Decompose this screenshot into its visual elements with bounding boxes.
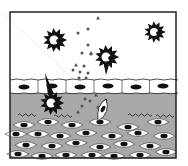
antigen-dot-icon bbox=[79, 71, 82, 74]
nucleus-icon bbox=[14, 152, 21, 157]
epithelial-layer bbox=[10, 79, 178, 94]
antigen-dot-icon bbox=[78, 77, 81, 80]
nucleus-icon bbox=[88, 153, 95, 158]
antigen-dot-icon bbox=[85, 77, 88, 80]
nucleus-icon bbox=[68, 123, 75, 128]
notch bbox=[53, 102, 57, 106]
notch bbox=[108, 56, 112, 60]
epithelial-nucleus-icon bbox=[131, 85, 142, 90]
nucleus-icon bbox=[136, 153, 143, 158]
antigen-dot-icon bbox=[83, 65, 86, 68]
epithelial-nucleus-icon bbox=[158, 84, 169, 89]
antigen-triangle-icon bbox=[74, 63, 78, 67]
antigen-dot-icon bbox=[81, 52, 84, 55]
nucleus-icon bbox=[48, 144, 55, 149]
nucleus-icon bbox=[72, 141, 79, 146]
notch bbox=[156, 31, 160, 35]
antigen-dot-icon bbox=[87, 44, 90, 47]
epithelial-nucleus-icon bbox=[75, 85, 86, 90]
nucleus-icon bbox=[124, 125, 131, 130]
nucleus-icon bbox=[82, 131, 89, 136]
nucleus-icon bbox=[108, 134, 115, 139]
nucleus-icon bbox=[12, 132, 19, 137]
pathogen-tail bbox=[104, 65, 109, 75]
nucleus-icon bbox=[120, 142, 127, 147]
epithelium-top-edge bbox=[10, 79, 178, 80]
nucleus-icon bbox=[34, 132, 41, 137]
antigen-dot-icon bbox=[81, 105, 84, 108]
antigen-triangle-icon bbox=[96, 16, 100, 20]
notch bbox=[56, 39, 60, 43]
antigen-triangle-icon bbox=[89, 51, 93, 55]
pathogen-icon bbox=[43, 28, 67, 52]
nucleus-icon bbox=[22, 143, 29, 148]
nucleus-icon bbox=[62, 153, 69, 158]
antigen-dot-icon bbox=[89, 100, 92, 103]
nucleus-icon bbox=[20, 123, 27, 128]
antigen-dot-icon bbox=[77, 32, 80, 35]
antigen-dot-icon bbox=[72, 69, 75, 72]
antigen-dot-icon bbox=[84, 98, 87, 101]
epithelial-nucleus-icon bbox=[19, 85, 30, 90]
immune-tissue-diagram bbox=[0, 0, 188, 166]
nucleus-icon bbox=[160, 134, 167, 139]
nucleus-icon bbox=[56, 134, 63, 139]
pathogen-icon bbox=[145, 21, 166, 42]
nucleus-icon bbox=[162, 150, 169, 155]
nucleus-icon bbox=[146, 144, 153, 149]
nucleus-icon bbox=[44, 120, 51, 125]
antigen-dot-icon bbox=[87, 72, 90, 75]
antigen-dot-icon bbox=[87, 28, 90, 31]
epithelium-band bbox=[10, 80, 176, 93]
epithelial-nucleus-icon bbox=[103, 84, 114, 89]
nucleus-icon bbox=[134, 131, 141, 136]
nucleus-icon bbox=[96, 145, 103, 150]
nucleus-icon bbox=[154, 120, 161, 125]
pathogen-group bbox=[43, 21, 166, 75]
